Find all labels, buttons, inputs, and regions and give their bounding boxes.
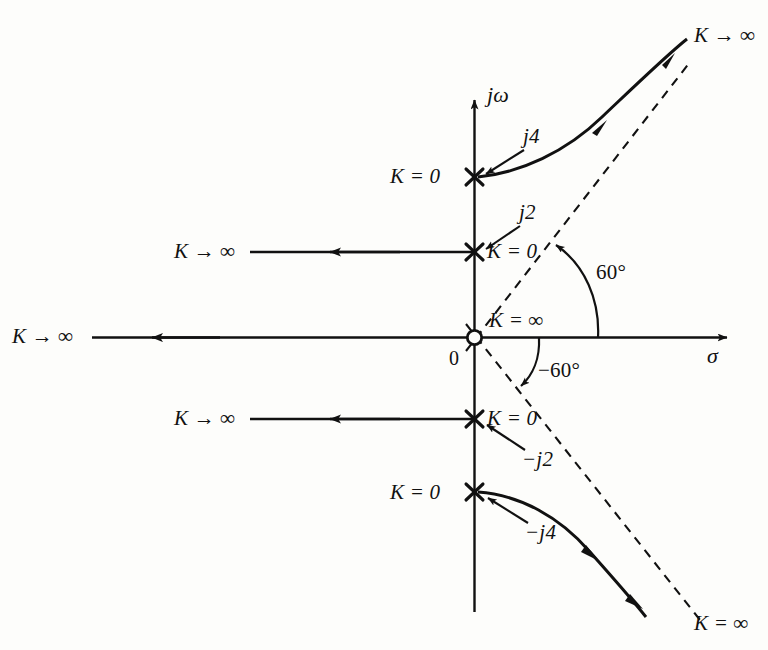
k-equals-infinity-label-lower-right: K = ∞	[694, 613, 749, 634]
pole-minus-j4-value-label: −j4	[525, 522, 556, 543]
zero-marker-origin	[467, 330, 481, 344]
k-to-infinity-label-upper-right: K → ∞	[694, 25, 755, 46]
angle-arc-negative-60	[521, 338, 539, 386]
angle-arc-positive-60-path	[556, 245, 598, 338]
angle-arc-positive-60	[556, 245, 598, 338]
pole-j4-value-label: j4	[523, 126, 540, 147]
k-to-infinity-label-middle-left: K → ∞	[12, 326, 73, 347]
origin-label: 0	[449, 348, 459, 368]
pole-j2-value-label: j2	[519, 202, 536, 223]
angle-label-positive-60: 60°	[596, 262, 626, 283]
root-locus-canvas	[0, 0, 768, 650]
k-equals-zero-label-minus-j2: K = 0	[487, 408, 537, 429]
k-equals-zero-label-j4: K = 0	[390, 166, 440, 187]
callout-arrow-j4	[486, 150, 524, 174]
pole-minus-j2-value-label: −j2	[522, 449, 553, 470]
k-equals-zero-label-j2: K = 0	[487, 241, 537, 262]
imaginary-axis-label: jω	[487, 84, 509, 106]
lower-curve-direction-arrow	[581, 545, 599, 561]
lower-curve-path	[478, 492, 646, 617]
k-to-infinity-label-upper-left: K → ∞	[174, 241, 235, 262]
real-axis-label: σ	[707, 345, 718, 367]
k-equals-zero-label-minus-j4: K = 0	[390, 482, 440, 503]
angle-label-negative-60: −60°	[538, 360, 580, 381]
root-locus-figure: jω σ 0 j4 j2 −j2 −j4 K = 0 K = 0 K = 0 K…	[0, 0, 768, 650]
k-equals-infinity-label-origin: K = ∞	[489, 310, 544, 331]
lower-complex-locus-curve	[478, 492, 646, 617]
asymptote-negative-60-line	[466, 324, 700, 620]
asymptote-group	[466, 62, 700, 620]
angle-arc-negative-60-path	[521, 338, 539, 386]
k-to-infinity-label-lower-left: K → ∞	[174, 408, 235, 429]
